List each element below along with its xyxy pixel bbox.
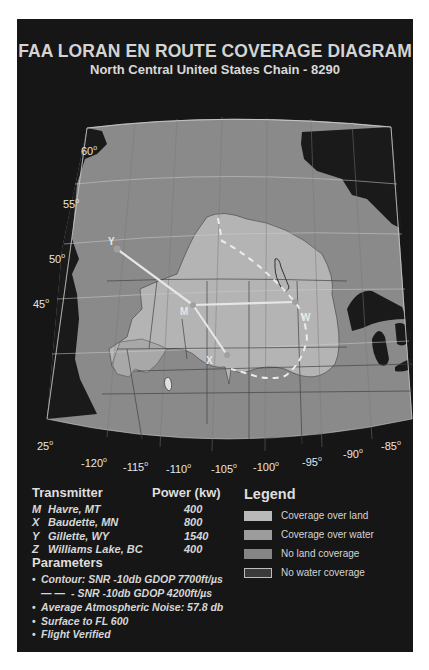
legend-title: Legend bbox=[244, 486, 296, 502]
lon-label-115: -115o bbox=[123, 460, 148, 473]
swatch-coverage-land bbox=[244, 511, 272, 521]
parameters-header: Parameters bbox=[32, 555, 103, 570]
legend-item-coverage-land: Coverage over land bbox=[244, 511, 414, 525]
legend-item-no-water: No water coverage bbox=[244, 568, 414, 582]
parameter-item: •Surface to FL 600 bbox=[32, 615, 128, 627]
lat-label-55: 55o bbox=[63, 197, 79, 210]
transmitter-header: Transmitter bbox=[32, 485, 103, 500]
transmitter-row: X Baudette, MN 800 bbox=[32, 516, 242, 529]
transmitter-row: Y Gillette, WY 1540 bbox=[32, 530, 242, 543]
lat-label-25: 25o bbox=[37, 439, 53, 452]
swatch-coverage-water bbox=[244, 530, 272, 540]
lat-label-50: 50o bbox=[49, 252, 65, 265]
lon-label-120: -120o bbox=[81, 456, 107, 469]
station-label-m: M bbox=[180, 306, 188, 317]
lon-label-90: -90o bbox=[343, 447, 363, 460]
parameter-item: •Contour: SNR -10db GDOP 7700ft/µs bbox=[32, 573, 223, 585]
lon-label-105: -105o bbox=[211, 462, 237, 475]
legend-item-no-land: No land coverage bbox=[244, 549, 414, 563]
station-label-y: Y bbox=[108, 236, 115, 247]
parameter-item: •Flight Verified bbox=[32, 628, 111, 640]
power-header: Power (kw) bbox=[152, 485, 221, 500]
lon-label-100: -100o bbox=[253, 460, 279, 473]
station-label-w: W bbox=[301, 312, 310, 323]
lat-label-60: 60o bbox=[81, 144, 97, 157]
lat-label-45: 45o bbox=[33, 297, 49, 310]
parameter-item: •Average Atmospheric Noise: 57.8 db bbox=[32, 601, 223, 613]
station-label-x: X bbox=[206, 355, 213, 366]
parameter-item-dashed: — —- SNR -10db GDOP 4200ft/µs bbox=[41, 587, 212, 599]
lon-label-110: -110o bbox=[166, 462, 191, 475]
transmitter-row: M Havre, MT 400 bbox=[32, 503, 242, 516]
lon-label-85: -85o bbox=[381, 439, 401, 452]
lake-huron bbox=[395, 323, 412, 346]
swatch-no-water bbox=[244, 568, 272, 578]
diagram-panel: FAA LORAN EN ROUTE COVERAGE DIAGRAM Nort… bbox=[17, 19, 413, 652]
swatch-no-land bbox=[244, 549, 272, 559]
legend-item-coverage-water: Coverage over water bbox=[244, 530, 414, 544]
lon-label-95: -95o bbox=[302, 455, 322, 468]
